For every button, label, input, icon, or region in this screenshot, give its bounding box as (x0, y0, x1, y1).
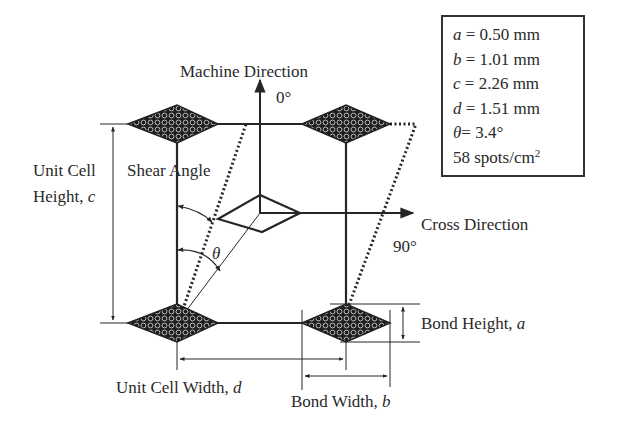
theta-label: θ (212, 244, 220, 264)
param-c: c = 2.26 mm (453, 72, 583, 97)
param-d: d = 1.51 mm (453, 97, 583, 122)
cross-angle-label: 90° (393, 237, 417, 257)
bond-width-var: b (382, 392, 391, 411)
sheared-cell-outline (180, 124, 416, 318)
shear-angle-label: Shear Angle (127, 161, 211, 181)
bond-spot-bottom-left (128, 304, 218, 342)
machine-angle-label: 0° (276, 88, 291, 108)
param-spot-density: 58 spots/cm2 (453, 146, 583, 171)
param-a: a = 0.50 mm (453, 23, 583, 48)
parameter-legend-box: a = 0.50 mm b = 1.01 mm c = 2.26 mm d = … (441, 15, 585, 177)
cross-direction-label: Cross Direction (421, 215, 528, 235)
param-b: b = 1.01 mm (453, 48, 583, 73)
unit-cell-height-label-line1: Unit Cell (33, 161, 96, 181)
unit-cell-height-dimension (100, 124, 128, 323)
bond-height-label: Bond Height, a (421, 314, 525, 334)
bond-spot-bottom-right (302, 304, 390, 342)
unit-cell-width-var: d (233, 378, 242, 397)
bond-spot-top-right (302, 105, 390, 143)
unit-cell-width-dimension (177, 342, 346, 370)
unit-cell-width-label: Unit Cell Width, d (116, 378, 242, 398)
machine-direction-label: Machine Direction (180, 62, 308, 82)
bond-width-label: Bond Width, b (291, 392, 391, 412)
unit-cell-height-var: c (88, 187, 96, 206)
unit-cell-height-label-line2: Height, c (33, 187, 95, 207)
shear-angle-arc (178, 206, 212, 222)
bond-height-var: a (517, 314, 526, 333)
param-theta: θ= 3.4° (453, 121, 583, 146)
unit-cell-frame (177, 124, 346, 323)
bond-spot-top-left (128, 105, 218, 143)
